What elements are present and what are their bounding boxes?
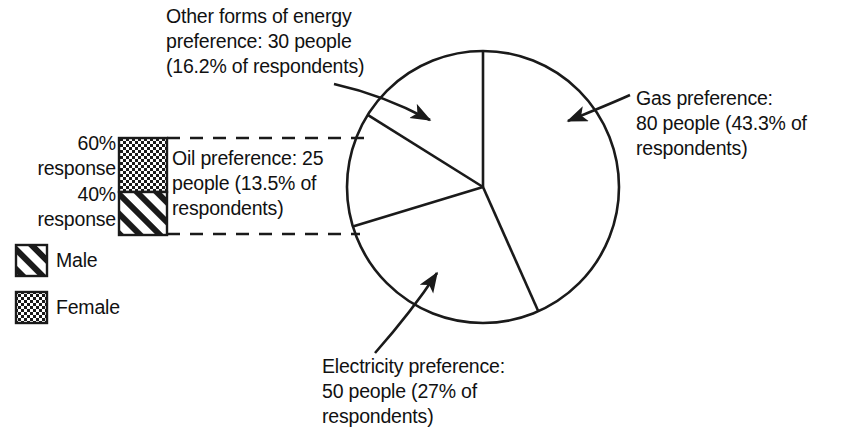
legend-swatch-male — [16, 245, 47, 276]
slice-label-other-forms: Other forms of energy preference: 30 peo… — [166, 4, 426, 79]
bar-label-40-percent-response: 40% response — [6, 182, 116, 232]
legend-swatch-female — [16, 292, 47, 323]
slice-label-oil: Oil preference: 25 people (13.5% of resp… — [172, 146, 352, 221]
slice-label-electricity: Electricity preference: 50 people (27% o… — [322, 354, 572, 429]
legend-label-female: Female — [56, 295, 120, 320]
stacked-bar-segment-male — [119, 192, 167, 235]
bar-label-60-percent-response: 60% response — [6, 131, 116, 181]
stacked-bar-segment-female — [119, 138, 167, 192]
pie-chart-figure: Other forms of energy preference: 30 peo… — [0, 0, 841, 431]
legend-label-male: Male — [56, 248, 97, 273]
slice-label-gas: Gas preference: 80 people (43.3% of resp… — [636, 86, 836, 161]
